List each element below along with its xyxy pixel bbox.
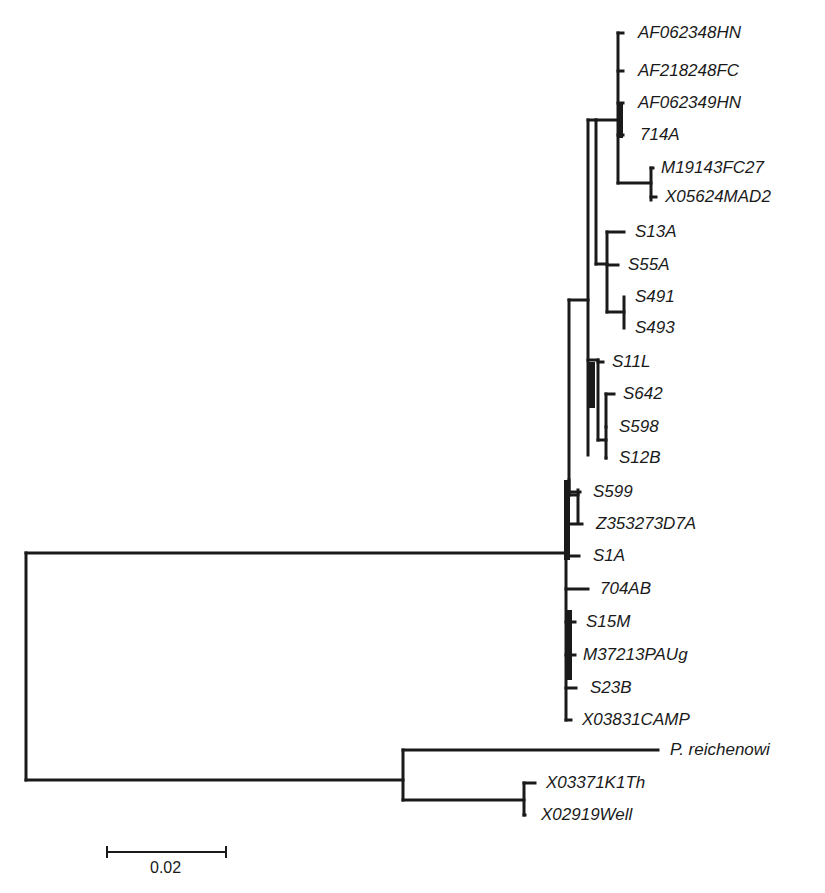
leaf-label: 714A	[640, 125, 680, 145]
leaf-label: AF062348HN	[638, 23, 741, 43]
leaf-label: M37213PAUg	[583, 645, 688, 665]
leaf-label: S599	[593, 482, 633, 502]
leaf-label: S491	[635, 287, 675, 307]
leaf-label: M19143FC27	[661, 158, 764, 178]
leaf-label: 704AB	[600, 579, 651, 599]
leaf-label: X03831CAMP	[582, 710, 690, 730]
leaf-label: S598	[619, 417, 659, 437]
leaf-label: S493	[635, 318, 675, 338]
leaf-label: X05624MAD2	[665, 187, 771, 207]
leaf-label: S12B	[619, 448, 661, 468]
leaf-label: S1A	[593, 546, 625, 566]
leaf-label: S642	[623, 384, 663, 404]
leaf-label: S23B	[590, 678, 632, 698]
leaf-label: AF218248FC	[638, 61, 739, 81]
leaf-label: P. reichenowi	[670, 740, 770, 760]
leaf-label: X03371K1Th	[546, 773, 645, 793]
leaf-label: S11L	[612, 352, 650, 372]
leaf-label: S15M	[586, 612, 630, 632]
leaf-label: S55A	[628, 255, 670, 275]
leaf-label: X02919Well	[541, 805, 632, 825]
scale-bar-label: 0.02	[150, 859, 181, 877]
scale-bar	[107, 846, 226, 858]
leaf-label: Z353273D7A	[596, 514, 696, 534]
tree-branches	[26, 33, 658, 815]
leaf-label: S13A	[635, 222, 677, 242]
leaf-label: AF062349HN	[638, 93, 741, 113]
